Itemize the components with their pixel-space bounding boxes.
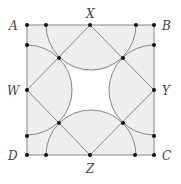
label-z: Z	[85, 162, 95, 176]
label-w: W	[7, 84, 21, 98]
diagram-canvas: A X B W Y D Z C	[0, 0, 181, 184]
label-a: A	[8, 19, 18, 33]
label-y: Y	[162, 84, 171, 98]
label-x: X	[85, 7, 95, 21]
label-d: D	[7, 149, 18, 163]
label-b: B	[161, 19, 171, 33]
label-c: C	[162, 149, 171, 163]
